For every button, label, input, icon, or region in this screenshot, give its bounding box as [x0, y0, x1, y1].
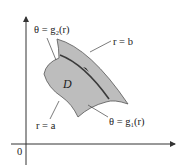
polar-region-diagram: θ = g₂(r) r = b D θ = g₁(r) r = a 0	[0, 0, 182, 166]
leader-lower	[88, 105, 108, 117]
label-region: D	[62, 77, 72, 91]
label-origin: 0	[17, 146, 22, 157]
label-inner-boundary: r = a	[36, 120, 56, 131]
leader-upper	[47, 38, 56, 60]
label-upper-boundary: θ = g₂(r)	[34, 24, 70, 36]
leader-inner	[50, 101, 59, 119]
label-outer-boundary: r = b	[113, 36, 133, 47]
label-lower-boundary: θ = g₁(r)	[109, 116, 145, 128]
leader-outer	[90, 41, 111, 52]
